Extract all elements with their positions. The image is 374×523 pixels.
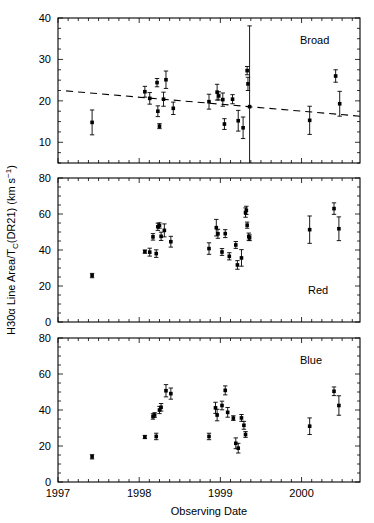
data-marker [155,81,159,85]
data-marker [248,236,252,240]
data-marker [232,416,236,420]
x-tick-label: 1998 [127,487,151,499]
data-marker [163,229,167,233]
data-marker [223,232,227,236]
data-point [225,407,229,417]
data-marker [217,94,221,98]
panel-label-red: Red [308,284,328,296]
data-point [337,396,341,415]
data-marker [248,105,252,109]
data-point [156,106,160,117]
data-point [220,249,224,256]
data-point [332,203,336,215]
data-marker [236,119,240,123]
data-point [207,433,211,439]
data-marker [153,413,157,417]
data-point [235,261,239,270]
data-point [161,92,165,106]
data-marker [90,121,94,125]
y-tick-label: 40 [39,12,51,24]
data-marker [148,97,152,101]
data-point [90,273,94,277]
panel-label-broad: Broad [300,34,329,46]
data-point [90,455,94,459]
data-marker [171,107,175,111]
data-marker [216,232,220,236]
data-point [207,94,211,109]
data-marker [240,416,244,420]
data-marker [338,102,342,106]
x-tick-label: 1997 [46,487,70,499]
panel-broad: 10203040Broad [39,12,360,187]
data-marker [231,97,235,101]
data-point [239,250,243,267]
data-marker [332,389,336,393]
data-point [222,119,226,130]
y-tick-label: 20 [39,280,51,292]
data-marker [151,235,155,239]
data-marker [164,389,168,393]
data-marker [207,100,211,104]
data-point [307,418,311,435]
data-point [241,117,245,139]
data-marker [337,404,341,408]
x-tick-label: 1999 [208,487,232,499]
data-point [157,124,161,129]
data-point [245,66,249,74]
data-point [152,413,156,418]
data-marker [158,224,162,228]
data-point [223,386,227,395]
data-point [242,421,246,429]
y-tick-label: 80 [39,332,51,344]
data-marker [244,433,248,437]
data-point [307,216,311,243]
panel-blue: 020406080Blue [39,332,360,488]
data-marker [245,69,249,73]
data-point [169,236,173,247]
data-marker [148,250,152,254]
data-point [155,78,159,86]
data-marker [90,455,94,459]
data-point [307,106,311,134]
data-marker [154,435,158,439]
data-point [154,433,158,439]
data-marker [164,78,168,82]
data-marker [245,209,249,213]
data-point [169,388,173,399]
data-marker [223,389,227,393]
data-marker [226,411,230,415]
panel-red: 020406080Red [39,172,360,328]
y-tick-label: 0 [45,316,51,328]
data-point [239,415,243,422]
data-marker [220,250,224,254]
data-point [143,250,147,254]
y-tick-label: 30 [39,53,51,65]
data-marker [143,435,147,439]
data-point [171,102,175,114]
data-marker [90,274,94,278]
data-marker [215,413,219,417]
data-marker [143,250,147,254]
data-marker [308,119,312,123]
data-marker [162,97,166,101]
data-marker [221,98,225,102]
data-point [90,110,94,135]
y-tick-label: 40 [39,404,51,416]
data-point [332,387,336,396]
data-marker [169,240,173,244]
y-tick-label: 20 [39,440,51,452]
data-point [234,242,238,249]
data-marker [241,126,245,130]
data-point [230,95,234,104]
data-marker [207,435,211,439]
x-axis-title: Observing Date [171,505,247,517]
y-axis-title: H30α Line Area/TC(DR21) (km s−1) [4,165,20,335]
data-marker [245,223,249,227]
data-point [151,234,155,240]
data-point [223,230,227,238]
data-marker [158,124,162,128]
data-point [143,435,147,439]
data-point [338,91,342,116]
data-point [231,416,235,421]
data-marker [332,207,336,211]
